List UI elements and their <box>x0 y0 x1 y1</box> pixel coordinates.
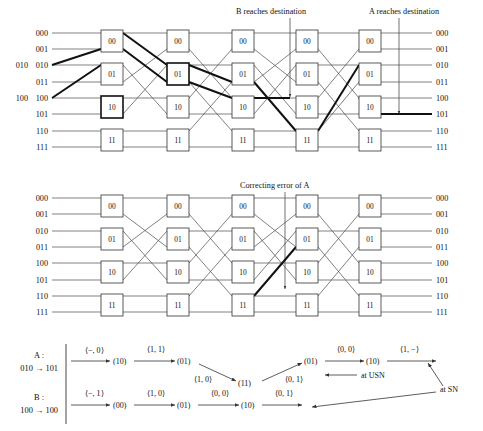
switch-label: 10 <box>108 103 116 112</box>
switch-label: 01 <box>239 70 247 79</box>
row-label-left-100: 100 <box>36 94 48 103</box>
switch-box[interactable]: 00 <box>101 195 123 217</box>
switch-box[interactable]: 10 <box>232 96 254 118</box>
switch-box[interactable]: 01 <box>359 228 381 250</box>
seq-a-node-1: (01) <box>177 357 191 366</box>
switch-box[interactable]: 01 <box>167 228 189 250</box>
row-label-right-001: 001 <box>436 210 448 219</box>
switch-box[interactable]: 00 <box>359 30 381 52</box>
row-label-left-101: 101 <box>36 110 48 119</box>
row-label-right-011: 011 <box>436 78 448 87</box>
switch-label: 00 <box>108 202 116 211</box>
switch-box[interactable]: 11 <box>232 294 254 316</box>
seq-b-edge-3: ⟨0, 1⟩ <box>275 389 293 398</box>
row-label-right-111: 111 <box>436 308 448 317</box>
switch-box[interactable]: 10 <box>359 96 381 118</box>
switch-box[interactable]: 01 <box>359 63 381 85</box>
network-figure: B reaches destination A reaches destinat… <box>0 0 483 431</box>
switch-label: 01 <box>303 70 311 79</box>
switch-box[interactable]: 11 <box>359 129 381 151</box>
sequence-row-a-route: 010 → 101 <box>20 364 58 373</box>
switch-label: 00 <box>366 37 374 46</box>
switch-box[interactable]: 01 <box>296 228 318 250</box>
switch-box[interactable]: 11 <box>296 129 318 151</box>
callout-sn-arrow-up <box>428 363 443 386</box>
switch-box[interactable]: 00 <box>359 195 381 217</box>
switch-label: 10 <box>108 268 116 277</box>
row-label-right-101: 101 <box>436 276 448 285</box>
sequence-panel: A : 010 → 101 ⟨−, 0⟩ (10) ⟨1, 1⟩ (01) ⟨1… <box>20 344 458 424</box>
switch-label: 11 <box>366 136 373 145</box>
switch-box[interactable]: 01 <box>101 63 123 85</box>
switch-box[interactable]: 10 <box>359 261 381 283</box>
switch-box[interactable]: 11 <box>167 294 189 316</box>
switch-box[interactable]: 00 <box>167 195 189 217</box>
seq-a-node-2: (11) <box>238 379 251 388</box>
callout-sn-arrow-down <box>312 392 436 407</box>
switch-label: 10 <box>239 268 247 277</box>
switch-box[interactable]: 11 <box>101 129 123 151</box>
switch-box[interactable]: 01 <box>296 63 318 85</box>
seq-a-node-3: (01) <box>304 357 318 366</box>
top-network-panel: 000 001 010 011 100 101 110 111 010 100 … <box>16 29 449 152</box>
switch-box[interactable]: 01 <box>101 228 123 250</box>
switch-box[interactable]: 00 <box>296 195 318 217</box>
middle-switch-boxes: 00 01 10 11 00 01 10 11 00 01 10 11 00 0… <box>101 195 381 316</box>
switch-box[interactable]: 10 <box>101 261 123 283</box>
switch-label: 00 <box>108 37 116 46</box>
switch-box[interactable]: 10 <box>101 96 123 118</box>
switch-box[interactable]: 11 <box>101 294 123 316</box>
seq-b-node-0: (00) <box>113 401 127 410</box>
annotation-correcting-error: Correcting error of A <box>240 181 309 190</box>
switch-label: 01 <box>174 235 182 244</box>
switch-box[interactable]: 10 <box>167 96 189 118</box>
switch-label: 00 <box>174 202 182 211</box>
switch-box[interactable]: 00 <box>167 30 189 52</box>
switch-label: 00 <box>174 37 182 46</box>
switch-box[interactable]: 10 <box>296 96 318 118</box>
row-label-left-111: 111 <box>36 143 48 152</box>
annotation-b-reaches: B reaches destination <box>236 7 306 16</box>
switch-box[interactable]: 00 <box>232 30 254 52</box>
top-right-labels: 000 001 010 011 100 101 110 111 <box>436 29 448 152</box>
row-label-right-010: 010 <box>436 61 448 70</box>
switch-box[interactable]: 00 <box>296 30 318 52</box>
switch-box[interactable]: 11 <box>359 294 381 316</box>
switch-box[interactable]: 11 <box>167 129 189 151</box>
seq-a-edge-2: ⟨1, 0⟩ <box>194 375 212 384</box>
row-label-right-000: 000 <box>436 29 448 38</box>
switch-label: 10 <box>303 268 311 277</box>
switch-label: 01 <box>366 235 374 244</box>
row-label-left-110: 110 <box>36 127 48 136</box>
figure-root: B reaches destination A reaches destinat… <box>0 0 483 431</box>
switch-label: 11 <box>108 301 115 310</box>
switch-box[interactable]: 10 <box>167 261 189 283</box>
row-label-right-010: 010 <box>436 227 448 236</box>
switch-box[interactable]: 01 <box>232 63 254 85</box>
row-label-right-101: 101 <box>436 110 448 119</box>
top-left-labels: 000 001 010 011 100 101 110 111 010 100 <box>16 29 48 152</box>
switch-label: 11 <box>174 301 181 310</box>
row-label-right-111: 111 <box>436 143 448 152</box>
switch-box[interactable]: 10 <box>232 261 254 283</box>
row-label-right-110: 110 <box>436 292 448 301</box>
switch-box[interactable]: 11 <box>296 294 318 316</box>
callout-usn-label: at USN <box>361 371 385 380</box>
switch-box[interactable]: 00 <box>232 195 254 217</box>
switch-box[interactable]: 01 <box>232 228 254 250</box>
row-label-left-101: 101 <box>36 276 48 285</box>
switch-label: 01 <box>366 70 374 79</box>
switch-label: 10 <box>366 268 374 277</box>
switch-label: 11 <box>366 301 373 310</box>
middle-left-labels: 000 001 010 011 100 101 110 111 <box>36 194 48 317</box>
switch-box[interactable]: 10 <box>296 261 318 283</box>
sequence-row-b-name: B : <box>34 393 44 402</box>
switch-box[interactable]: 11 <box>232 129 254 151</box>
seq-a-edge-0: ⟨−, 0⟩ <box>85 346 104 355</box>
switch-box[interactable]: 01 <box>167 63 189 85</box>
switch-label: 11 <box>239 136 246 145</box>
switch-box[interactable]: 00 <box>101 30 123 52</box>
row-label-left-100: 100 <box>36 259 48 268</box>
seq-a-edge-5: ⟨1, −⟩ <box>400 345 419 354</box>
switch-label: 11 <box>303 301 310 310</box>
